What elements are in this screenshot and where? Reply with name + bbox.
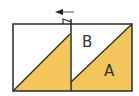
- region-b-label: B: [82, 33, 92, 51]
- fold-diagram: B A: [0, 0, 139, 96]
- region-a-label: A: [104, 62, 115, 80]
- region-a-fill: [71, 24, 132, 91]
- arrow-left-icon: [55, 9, 74, 15]
